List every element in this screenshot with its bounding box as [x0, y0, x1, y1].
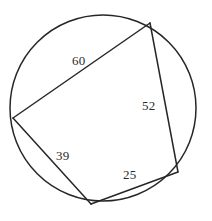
side-top-left: [13, 23, 150, 118]
geometry-figure: 60 52 39 25: [0, 0, 212, 221]
side-bottom-left: [13, 118, 91, 204]
side-label-right: 52: [142, 99, 155, 112]
geometry-diagram: [0, 0, 212, 221]
side-label-bottom: 25: [123, 168, 136, 181]
side-label-bottom-left: 39: [56, 149, 69, 162]
circumscribed-circle: [10, 15, 196, 201]
side-label-top-left: 60: [72, 54, 85, 67]
